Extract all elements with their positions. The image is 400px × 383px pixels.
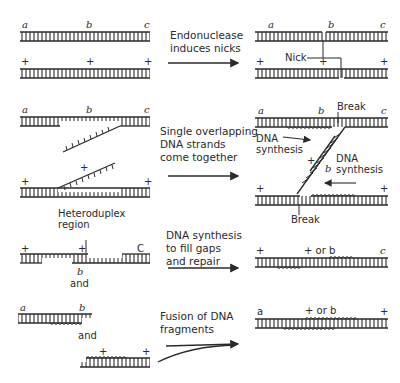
caption-line: come together [160,151,258,164]
step1-left-duplex [20,32,150,78]
caption-line: and repair [166,255,242,268]
break-label-bottom: Break [291,214,320,225]
step2-left-strands [20,117,150,197]
label-b: b [325,163,331,174]
label-a: a [20,302,26,313]
label-plus-or-b: + or b [304,245,335,256]
label-c: c [144,104,150,115]
step4-caption: Fusion of DNA fragments [160,310,234,336]
label-plus: + [319,56,327,67]
step4-right-fused [255,318,388,330]
label-plus: + [99,346,107,357]
label-a: a [268,19,274,30]
label-plus: + [380,183,388,194]
caption-line: fragments [160,323,234,336]
label-c: c [144,19,150,30]
label-b: b [77,266,83,277]
label-c: c [380,19,386,30]
label-plus: + [380,306,388,317]
caption-line: induces nicks [170,42,243,55]
label-a: a [22,104,28,115]
label-plus: + [142,346,150,357]
caption-line: Single overlapping [160,125,258,138]
label-line: synthesis [336,164,383,175]
step2-caption: Single overlapping DNA strands come toge… [160,125,258,164]
label-line: region [58,219,125,230]
break-label-top: Break [337,101,366,112]
caption-line: DNA strands [160,138,258,151]
step4-arrow [158,344,238,362]
label-plus: + [256,183,264,194]
label-plus: + [21,243,29,254]
label-plus: + [78,243,86,254]
label-plus: + [380,56,388,67]
label-b: b [86,19,92,30]
nick-callout: Nick [285,52,307,63]
label-plus: + [307,155,315,166]
heteroduplex-region-label: Heteroduplex region [58,208,125,230]
label-plus: + [21,176,29,187]
label-b: b [79,302,85,313]
label-a: a [258,105,264,116]
label-c: c [380,245,386,256]
label-a: a [22,19,28,30]
label-line: DNA [256,133,303,144]
dna-synthesis-label-left: DNA synthesis [256,133,303,155]
label-line: synthesis [256,144,303,155]
step1-caption: Endonuclease induces nicks [170,29,243,55]
label-plus-or-b: + or b [305,305,336,316]
step3-caption: DNA synthesis to fill gaps and repair [166,229,242,268]
caption-line: Fusion of DNA [160,310,234,323]
step1-right-duplex [255,32,388,78]
label-plus: + [256,56,264,67]
caption-line: to fill gaps [166,242,242,255]
label-plus: + [86,56,94,67]
label-c: C [137,243,144,254]
caption-line: Endonuclease [170,29,243,42]
label-b: b [328,19,334,30]
and-label: and [78,330,97,341]
label-plus: + [144,176,152,187]
label-b: b [86,104,92,115]
label-a: a [257,306,263,317]
label-line: DNA [336,153,383,164]
label-plus: + [21,56,29,67]
step3-right-repaired [255,257,388,269]
label-plus: + [80,162,88,173]
label-plus: + [144,56,152,67]
label-c: c [381,105,387,116]
dna-synthesis-label-right: DNA synthesis [336,153,383,175]
and-label: and [70,278,89,289]
caption-line: DNA synthesis [166,229,242,242]
label-line: Heteroduplex [58,208,125,219]
label-plus: + [256,245,264,256]
label-b: b [318,105,324,116]
